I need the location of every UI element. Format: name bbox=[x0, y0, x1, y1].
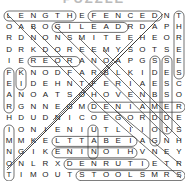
grid-cell[interactable]: T bbox=[88, 169, 100, 180]
grid-cell[interactable]: U bbox=[88, 124, 100, 135]
grid-cell[interactable]: T bbox=[64, 169, 76, 180]
grid-cell[interactable]: S bbox=[161, 44, 173, 55]
grid-cell[interactable]: H bbox=[52, 78, 64, 89]
grid-cell[interactable]: A bbox=[112, 56, 124, 67]
grid-cell[interactable]: A bbox=[136, 101, 148, 112]
grid-cell[interactable]: E bbox=[149, 33, 161, 44]
grid-cell[interactable]: R bbox=[3, 101, 15, 112]
grid-cell[interactable]: E bbox=[124, 33, 136, 44]
grid-cell[interactable]: S bbox=[124, 44, 136, 55]
grid-cell[interactable]: R bbox=[173, 33, 185, 44]
grid-cell[interactable]: O bbox=[39, 169, 51, 180]
grid-cell[interactable]: D bbox=[15, 113, 27, 124]
grid-cell[interactable]: D bbox=[149, 113, 161, 124]
grid-cell[interactable]: R bbox=[64, 56, 76, 67]
grid-cell[interactable]: H bbox=[3, 113, 15, 124]
grid-cell[interactable]: X bbox=[52, 158, 64, 169]
grid-cell[interactable]: E bbox=[149, 78, 161, 89]
grid-cell[interactable]: O bbox=[52, 56, 64, 67]
grid-cell[interactable]: H bbox=[88, 90, 100, 101]
grid-cell[interactable]: D bbox=[52, 67, 64, 78]
grid-cell[interactable]: L bbox=[124, 169, 136, 180]
grid-cell[interactable]: K bbox=[124, 67, 136, 78]
grid-cell[interactable]: L bbox=[3, 10, 15, 21]
grid-cell[interactable]: R bbox=[88, 67, 100, 78]
grid-cell[interactable]: B bbox=[100, 135, 112, 146]
grid-cell[interactable]: N bbox=[52, 33, 64, 44]
grid-cell[interactable]: N bbox=[15, 90, 27, 101]
grid-cell[interactable]: R bbox=[27, 56, 39, 67]
grid-cell[interactable]: M bbox=[149, 169, 161, 180]
grid-cell[interactable]: L bbox=[112, 124, 124, 135]
grid-cell[interactable]: N bbox=[136, 90, 148, 101]
grid-cell[interactable]: I bbox=[136, 158, 148, 169]
grid-cell[interactable]: T bbox=[100, 124, 112, 135]
grid-cell[interactable]: E bbox=[100, 78, 112, 89]
grid-cell[interactable]: S bbox=[76, 169, 88, 180]
grid-cell[interactable]: H bbox=[136, 33, 148, 44]
grid-cell[interactable]: L bbox=[112, 67, 124, 78]
grid-cell[interactable]: E bbox=[76, 44, 88, 55]
grid-cell[interactable]: E bbox=[173, 56, 185, 67]
grid-cell[interactable]: E bbox=[124, 90, 136, 101]
grid-cell[interactable]: K bbox=[15, 67, 27, 78]
grid-cell[interactable]: N bbox=[27, 101, 39, 112]
grid-cell[interactable]: C bbox=[124, 10, 136, 21]
grid-cell[interactable]: E bbox=[15, 10, 27, 21]
grid-cell[interactable]: N bbox=[88, 147, 100, 158]
grid-cell[interactable]: B bbox=[100, 67, 112, 78]
grid-cell[interactable]: F bbox=[64, 67, 76, 78]
grid-cell[interactable]: A bbox=[39, 90, 51, 101]
word-search-grid[interactable]: LENGTHEFENCEDNTOABOGILEADRDAPHRDNONSMITE… bbox=[3, 10, 185, 181]
grid-cell[interactable]: V bbox=[136, 147, 148, 158]
grid-cell[interactable]: O bbox=[3, 158, 15, 169]
grid-cell[interactable]: S bbox=[173, 124, 185, 135]
grid-cell[interactable]: O bbox=[39, 21, 51, 32]
grid-cell[interactable]: O bbox=[149, 124, 161, 135]
grid-cell[interactable]: T bbox=[124, 158, 136, 169]
grid-cell[interactable]: A bbox=[100, 21, 112, 32]
grid-cell[interactable]: R bbox=[173, 158, 185, 169]
grid-cell[interactable]: A bbox=[76, 56, 88, 67]
grid-cell[interactable]: E bbox=[39, 56, 51, 67]
grid-cell[interactable]: E bbox=[149, 158, 161, 169]
grid-cell[interactable]: D bbox=[39, 44, 51, 55]
grid-cell[interactable]: E bbox=[161, 67, 173, 78]
grid-cell[interactable]: D bbox=[15, 33, 27, 44]
grid-cell[interactable]: R bbox=[3, 33, 15, 44]
grid-cell[interactable]: R bbox=[64, 44, 76, 55]
grid-cell[interactable]: T bbox=[161, 158, 173, 169]
grid-cell[interactable]: N bbox=[149, 147, 161, 158]
grid-cell[interactable]: L bbox=[52, 135, 64, 146]
grid-cell[interactable]: O bbox=[136, 44, 148, 55]
grid-cell[interactable]: I bbox=[124, 101, 136, 112]
grid-cell[interactable]: G bbox=[52, 21, 64, 32]
grid-cell[interactable]: M bbox=[76, 101, 88, 112]
grid-cell[interactable]: E bbox=[15, 56, 27, 67]
grid-cell[interactable]: I bbox=[3, 56, 15, 67]
grid-cell[interactable]: D bbox=[39, 113, 51, 124]
grid-cell[interactable]: O bbox=[100, 147, 112, 158]
grid-cell[interactable]: G bbox=[112, 113, 124, 124]
grid-cell[interactable]: O bbox=[100, 56, 112, 67]
grid-cell[interactable]: T bbox=[100, 33, 112, 44]
grid-cell[interactable]: H bbox=[173, 21, 185, 32]
grid-cell[interactable]: A bbox=[136, 135, 148, 146]
grid-cell[interactable]: U bbox=[27, 113, 39, 124]
grid-cell[interactable]: N bbox=[88, 158, 100, 169]
grid-cell[interactable]: N bbox=[27, 33, 39, 44]
grid-cell[interactable]: O bbox=[76, 90, 88, 101]
grid-cell[interactable]: I bbox=[124, 135, 136, 146]
grid-cell[interactable]: I bbox=[76, 124, 88, 135]
grid-cell[interactable]: R bbox=[136, 113, 148, 124]
grid-cell[interactable]: M bbox=[149, 101, 161, 112]
grid-cell[interactable]: O bbox=[39, 67, 51, 78]
grid-cell[interactable]: A bbox=[76, 67, 88, 78]
grid-cell[interactable]: T bbox=[76, 78, 88, 89]
grid-cell[interactable]: E bbox=[136, 10, 148, 21]
grid-cell[interactable]: S bbox=[173, 67, 185, 78]
grid-cell[interactable]: T bbox=[52, 90, 64, 101]
grid-cell[interactable]: M bbox=[100, 44, 112, 55]
grid-cell[interactable]: I bbox=[15, 78, 27, 89]
grid-cell[interactable]: O bbox=[52, 44, 64, 55]
